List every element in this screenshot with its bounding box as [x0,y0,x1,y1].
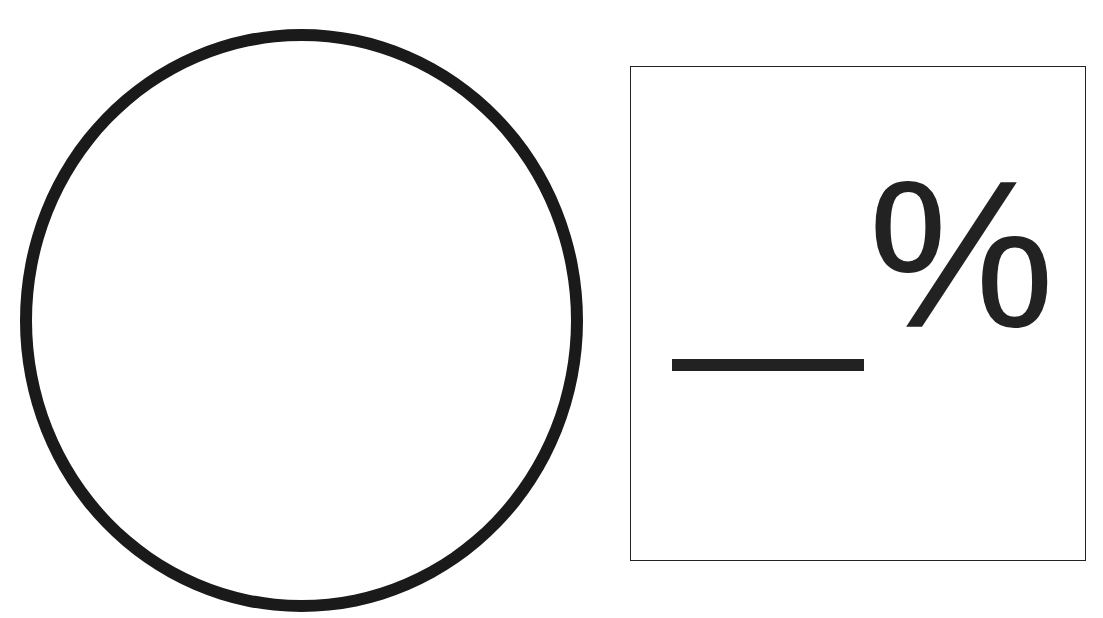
percent-symbol: % [868,150,1055,360]
circle-shape [20,29,583,612]
answer-blank-line [672,359,864,371]
